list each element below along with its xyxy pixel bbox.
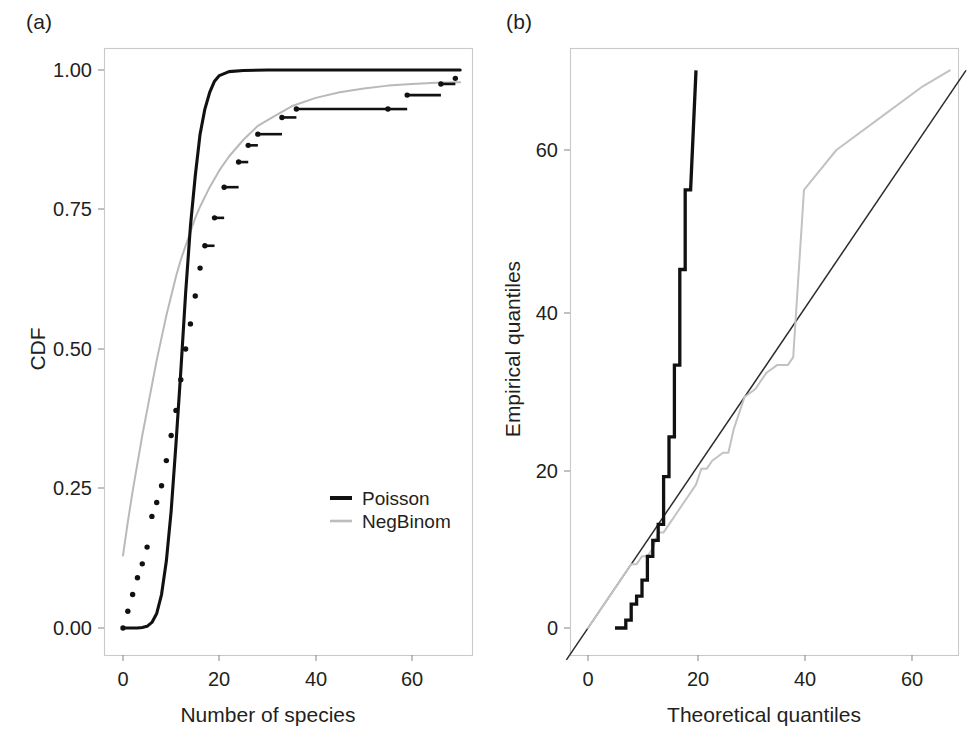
- y-axis-tick-labels-a: 1.00 0.75 0.50 0.25 0.00: [53, 59, 92, 639]
- series-group-b: [566, 70, 966, 660]
- y-axis-tick-labels-b: 60 40 20 0: [536, 139, 558, 639]
- y-tick-label: 0.00: [53, 617, 92, 639]
- poisson-qq-curve: [615, 70, 696, 628]
- panel-b-qq-plot: (b) 60 40 20 0: [490, 0, 979, 738]
- empirical-cdf-steps: [120, 76, 458, 631]
- plot-frame-a: [105, 49, 473, 656]
- legend-label-poisson: Poisson: [362, 488, 430, 509]
- poisson-cdf-curve: [123, 70, 460, 628]
- x-tick-label: 0: [117, 668, 128, 690]
- ecdf-point: [135, 575, 140, 580]
- y-tick-label: 0: [547, 617, 558, 639]
- x-axis-tick-labels-b: 0 20 40 60: [582, 668, 923, 690]
- x-axis-title-b: Theoretical quantiles: [667, 703, 861, 726]
- y-tick-label: 0.75: [53, 198, 92, 220]
- y-tick-label: 60: [536, 139, 558, 161]
- ecdf-point: [125, 609, 130, 614]
- y-tick-label: 20: [536, 460, 558, 482]
- ecdf-point: [453, 76, 458, 81]
- x-tick-label: 40: [794, 668, 816, 690]
- panel-a-cdf-plot: (a) 1.00 0.75 0.50 0.25 0.00: [0, 0, 489, 738]
- y-tick-label: 0.25: [53, 477, 92, 499]
- ecdf-point: [188, 321, 193, 326]
- x-tick-label: 20: [687, 668, 709, 690]
- y-tick-label: 1.00: [53, 59, 92, 81]
- y-axis-ticks-a: [98, 70, 104, 628]
- panel-b-svg: 60 40 20 0 0 20 40 60 Theoretical quanti…: [490, 0, 979, 738]
- figure-container: (a) 1.00 0.75 0.50 0.25 0.00: [0, 0, 979, 738]
- x-axis-title-a: Number of species: [180, 703, 355, 726]
- x-tick-label: 20: [208, 668, 230, 690]
- legend-a: Poisson NegBinom: [330, 488, 451, 532]
- series-group-a: [120, 70, 460, 631]
- negbinom-qq-curve: [588, 70, 950, 628]
- x-tick-label: 60: [901, 668, 923, 690]
- panel-a-svg: 1.00 0.75 0.50 0.25 0.00 0 20 40 60 Numb…: [0, 0, 489, 738]
- ecdf-point: [149, 514, 154, 519]
- ecdf-point: [154, 500, 159, 505]
- x-tick-label: 0: [582, 668, 593, 690]
- ecdf-point: [144, 544, 149, 549]
- y-axis-title-b: Empirical quantiles: [501, 261, 524, 437]
- ecdf-point: [193, 293, 198, 298]
- x-tick-label: 60: [401, 668, 423, 690]
- legend-label-negbinom: NegBinom: [362, 511, 451, 532]
- y-axis-title-a: CDF: [26, 327, 49, 370]
- y-tick-label: 40: [536, 302, 558, 324]
- ecdf-point: [164, 458, 169, 463]
- x-tick-label: 40: [305, 668, 327, 690]
- ecdf-point: [168, 433, 173, 438]
- y-tick-label: 0.50: [53, 338, 92, 360]
- y-axis-ticks-b: [564, 150, 570, 628]
- plot-frame-b: [571, 49, 959, 656]
- x-axis-tick-labels-a: 0 20 40 60: [117, 668, 423, 690]
- ecdf-point: [197, 265, 202, 270]
- ecdf-point: [140, 561, 145, 566]
- ecdf-point: [159, 483, 164, 488]
- ecdf-point: [130, 592, 135, 597]
